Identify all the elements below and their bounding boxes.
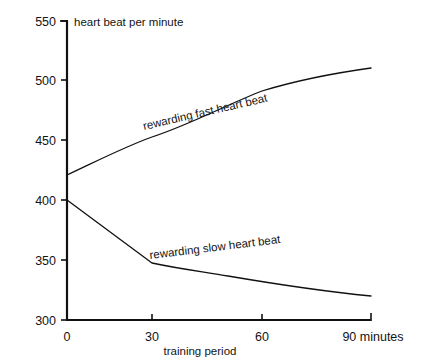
y-tick-label-450: 450 xyxy=(35,134,56,148)
y-tick-label-350: 350 xyxy=(35,254,56,268)
series-label-slow: rewarding slow heart beat xyxy=(149,233,282,261)
chart-container: 550 500 450 400 350 300 0 30 60 90 minut… xyxy=(0,0,428,360)
x-tick-label-60: 60 xyxy=(255,330,269,344)
x-axis-caption: training period xyxy=(164,345,237,357)
line-chart: 550 500 450 400 350 300 0 30 60 90 minut… xyxy=(0,0,428,360)
y-tick-label-500: 500 xyxy=(35,74,56,88)
x-tick-label-30: 30 xyxy=(145,330,159,344)
y-tick-label-550: 550 xyxy=(35,15,56,29)
y-tick-label-300: 300 xyxy=(35,314,56,328)
x-tick-label-0: 0 xyxy=(64,330,71,344)
series-label-fast: rewarding fast heart beat xyxy=(142,91,269,131)
series-line-fast xyxy=(67,68,371,175)
x-tick-label-90: 90 minutes xyxy=(342,330,403,344)
y-tick-label-400: 400 xyxy=(35,194,56,208)
y-axis-caption: heart beat per minute xyxy=(74,16,183,28)
